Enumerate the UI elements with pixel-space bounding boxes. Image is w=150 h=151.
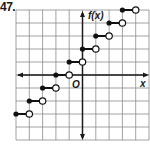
open-dot-icon (93, 46, 99, 52)
step-segment (120, 7, 139, 13)
y-axis-up-arrow-icon (80, 11, 85, 17)
open-dot-icon (79, 59, 85, 65)
closed-dot-icon (80, 46, 85, 51)
open-dot-icon (66, 72, 72, 78)
step-segment (107, 20, 126, 26)
step-segment (27, 98, 46, 104)
closed-dot-icon (107, 20, 112, 25)
y-axis-label: f(x) (88, 10, 104, 21)
open-dot-icon (133, 7, 139, 13)
closed-dot-icon (120, 7, 125, 12)
closed-dot-icon (53, 72, 58, 77)
step-segment (80, 46, 99, 52)
step-segment (40, 85, 59, 91)
open-dot-icon (106, 33, 112, 39)
closed-dot-icon (67, 59, 72, 64)
closed-dot-icon (27, 98, 32, 103)
step-segment (13, 111, 32, 117)
x-axis-label: x (139, 78, 146, 89)
step-segment (53, 72, 72, 78)
open-dot-icon (39, 98, 45, 104)
step-function-graph: f(x) x O (0, 0, 150, 151)
open-dot-icon (119, 20, 125, 26)
closed-dot-icon (40, 85, 45, 90)
closed-dot-icon (13, 111, 18, 116)
open-dot-icon (26, 111, 32, 117)
x-axis-left-arrow-icon (17, 73, 23, 78)
x-axis-right-arrow-icon (143, 73, 149, 78)
axes (17, 11, 149, 140)
open-dot-icon (53, 85, 59, 91)
step-segment (67, 59, 86, 65)
step-segment (93, 33, 112, 39)
y-axis-down-arrow-icon (80, 134, 85, 140)
origin-label: O (72, 79, 80, 90)
closed-dot-icon (93, 33, 98, 38)
